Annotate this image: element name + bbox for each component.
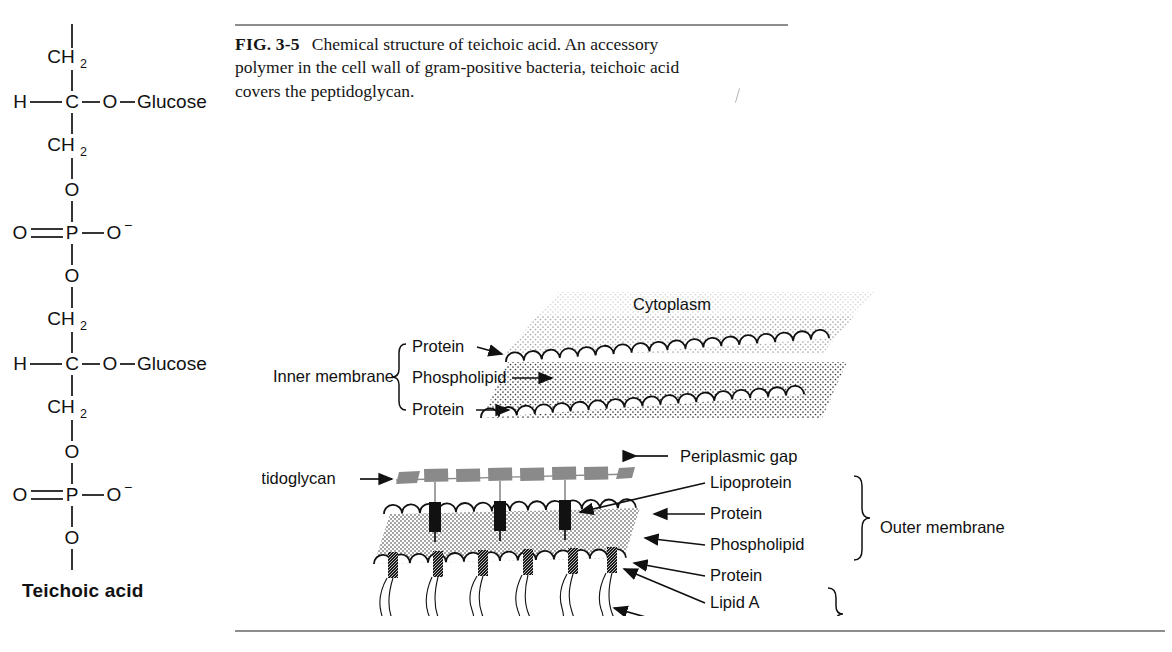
- peptidoglycan-layer: [396, 466, 635, 504]
- outer-membrane-brace: [854, 476, 870, 560]
- figure-number: FIG. 3-5: [235, 34, 300, 54]
- atom-o-ester-3: O: [65, 441, 80, 462]
- atom-o-dbl-1: O: [13, 222, 28, 243]
- atom-o-ester-2: O: [65, 265, 80, 286]
- atom-ch2-4-sub: 2: [80, 407, 87, 421]
- atom-c-2: C: [65, 353, 79, 374]
- cell-envelope-diagram: Cytoplasm Inner membrane Protein Phospho…: [262, 286, 1172, 616]
- atom-h-2: H: [13, 353, 27, 374]
- peptidoglycan-label: Peptidoglycan: [262, 469, 336, 487]
- lipopolysaccharide-group-label: Lipopolysaccharide: [854, 615, 995, 616]
- periplasmic-gap-label: Periplasmic gap: [680, 447, 797, 465]
- inner-membrane-label-phospholipid: Phospholipid: [412, 368, 507, 386]
- atom-o-ester-1: O: [65, 179, 80, 200]
- atom-o-minus-1-charge: −: [124, 217, 132, 233]
- atom-ch2-1: CH: [47, 46, 74, 67]
- atom-ch2-3: CH: [47, 308, 74, 329]
- outer-membrane-label-protein-top: Protein: [710, 504, 762, 522]
- atom-h-1: H: [13, 91, 27, 112]
- atom-p-2: P: [66, 484, 79, 505]
- inner-membrane-label-protein-top: Protein: [412, 337, 464, 355]
- outer-membrane-label-phospholipid: Phospholipid: [710, 535, 805, 553]
- lipopolysaccharide-brace: [828, 588, 843, 616]
- outer-membrane-group-label: Outer membrane: [880, 518, 1005, 536]
- atom-o-minus-1: O: [107, 222, 122, 243]
- label-glucose-1: Glucose: [137, 91, 207, 112]
- leader-outer-protein-bottom: [634, 563, 705, 576]
- page-bottom-rule: [235, 630, 1165, 632]
- atom-o-minus-2-charge: −: [124, 479, 132, 495]
- figure-caption: FIG. 3-5Chemical structure of teichoic a…: [235, 33, 715, 103]
- atom-c-1: C: [65, 91, 79, 112]
- atom-ch2-1-sub: 2: [80, 57, 87, 71]
- teichoic-acid-structure: CH 2 H C O Glucose CH 2 O O P O −: [0, 10, 235, 610]
- atom-p-1: P: [66, 222, 79, 243]
- atom-o-ester-4: O: [65, 527, 80, 548]
- atom-o-glucose-1: O: [103, 91, 118, 112]
- inner-membrane-group-label: Inner membrane: [273, 367, 394, 385]
- leader-inner-protein-top: [477, 347, 502, 354]
- atom-ch2-2: CH: [47, 134, 74, 155]
- inner-membrane-label-protein-bottom: Protein: [412, 400, 464, 418]
- figure-caption-text: Chemical structure of teichoic acid. An …: [235, 34, 679, 101]
- cytoplasm-label: Cytoplasm: [633, 295, 711, 313]
- atom-o-glucose-2: O: [103, 353, 118, 374]
- leader-lipoprotein: [580, 483, 705, 512]
- atom-o-dbl-2: O: [13, 484, 28, 505]
- caption-top-rule: [235, 24, 788, 26]
- outer-membrane-label-lipoprotein: Lipoprotein: [710, 473, 792, 491]
- teichoic-acid-title: Teichoic acid: [22, 580, 144, 602]
- atom-o-minus-2: O: [107, 484, 122, 505]
- atom-ch2-4: CH: [47, 396, 74, 417]
- figure-page: FIG. 3-5Chemical structure of teichoic a…: [0, 0, 1172, 652]
- inner-membrane-brace: [392, 344, 406, 410]
- lipid-a-label: Lipid A: [710, 593, 760, 611]
- outer-membrane-label-protein-bottom: Protein: [710, 566, 762, 584]
- label-glucose-2: Glucose: [137, 353, 207, 374]
- atom-ch2-2-sub: 2: [80, 145, 87, 159]
- atom-ch2-3-sub: 2: [80, 319, 87, 333]
- leader-o-antigen: [614, 608, 705, 616]
- leader-outer-phospholipid: [645, 538, 705, 545]
- stray-pen-mark: [735, 88, 740, 103]
